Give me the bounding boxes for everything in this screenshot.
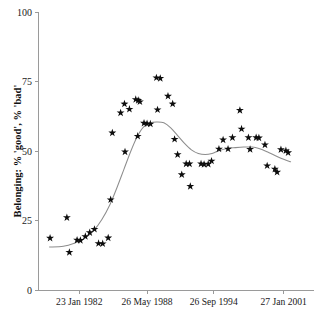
data-point-marker [263,162,271,169]
data-point-marker [246,145,254,152]
data-point-marker [229,134,237,141]
x-axis-ticks [79,291,283,295]
data-point-marker [154,106,162,113]
x-tick-label: 26 May 1988 [121,296,172,307]
x-tick-label: 27 Jan 2001 [261,296,308,307]
chart-figure: 0255075100 23 Jan 198226 May 198826 Sep … [0,0,320,321]
y-axis-ticks [35,12,39,291]
data-point-marker [134,132,142,139]
data-point-marker [108,129,116,136]
data-point-marker [164,92,172,99]
data-point-marker [174,150,182,157]
y-tick-label: 25 [22,215,32,226]
data-point-marker [238,125,246,132]
data-point-marker [186,182,194,189]
data-point-marker [244,134,252,141]
data-point-marker [178,171,186,178]
y-tick-label: 75 [22,76,32,87]
data-point-marker [261,141,269,148]
data-points [46,74,292,256]
data-point-marker [169,100,177,107]
data-point-marker [125,105,133,112]
y-tick-label: 50 [22,146,32,157]
data-point-marker [63,213,71,220]
data-point-marker [219,136,227,143]
y-axis-title: Belonging: % 'good', % 'bad' [12,85,23,218]
data-point-marker [117,109,125,116]
data-point-marker [65,248,73,255]
x-tick-label: 23 Jan 1982 [56,296,103,307]
y-tick-label: 100 [17,7,32,18]
y-tick-label: 0 [27,285,32,296]
data-point-marker [277,145,285,152]
scatter-plot: 0255075100 23 Jan 198226 May 198826 Sep … [0,0,320,321]
axes [39,12,315,291]
trend-line [50,122,291,247]
data-point-marker [236,106,244,113]
data-point-marker [121,148,129,155]
data-point-marker [171,135,179,142]
data-point-marker [104,234,112,241]
x-axis-tick-labels: 23 Jan 198226 May 198826 Sep 199427 Jan … [56,296,307,307]
x-tick-label: 26 Sep 1994 [190,296,238,307]
data-point-marker [46,234,54,241]
data-point-marker [121,100,129,107]
